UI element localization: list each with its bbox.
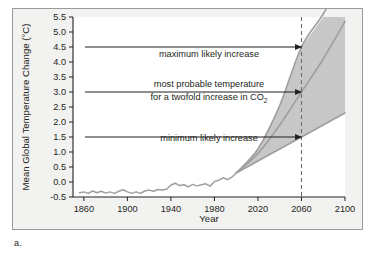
annotation-maximum-label: maximum likely increase [159, 49, 259, 59]
y-axis-title: Mean Global Temperature Change (°C) [20, 24, 31, 191]
y-tick-label: 2.5 [53, 102, 66, 112]
y-tick-label: 0.0 [53, 177, 66, 187]
annotation-minimum-label: minimum likely increase [160, 133, 258, 143]
annotation-co2-subscript: 2 [264, 97, 268, 104]
y-tick-label: 1.0 [53, 147, 66, 157]
x-tick-label: 2020 [248, 204, 268, 214]
y-tick-label: 5.5 [53, 12, 66, 22]
x-tick-label: 1900 [117, 204, 137, 214]
x-tick-label: 1860 [74, 204, 94, 214]
temperature-projection-chart: -0.50.00.51.01.52.02.53.03.54.04.55.05.5… [13, 9, 362, 229]
x-tick-label: 2100 [335, 204, 355, 214]
figure-panel: -0.50.00.51.01.52.02.53.03.54.04.55.05.5… [0, 0, 375, 264]
y-axis-ticks: -0.50.00.51.01.52.02.53.03.54.04.55.05.5 [50, 12, 73, 202]
x-axis-ticks: 1860190019401980202020602100 [74, 197, 356, 214]
chart-frame: -0.50.00.51.01.52.02.53.03.54.04.55.05.5… [12, 8, 363, 230]
y-tick-label: 4.5 [53, 42, 66, 52]
x-axis-title: Year [199, 213, 219, 224]
annotation-probable-label-line2: for a twofold increase in CO2 [150, 92, 267, 104]
annotation-probable-label-line1: most probable temperature [154, 79, 264, 89]
y-tick-label: 3.5 [53, 72, 66, 82]
x-tick-label: 2060 [291, 204, 311, 214]
y-tick-label: -0.5 [50, 192, 66, 202]
figure-caption: a. [14, 238, 22, 248]
y-tick-label: 3.0 [53, 87, 66, 97]
annotation-probable-text: for a twofold increase in CO [150, 92, 263, 102]
x-tick-label: 1940 [161, 204, 181, 214]
y-tick-label: 2.0 [53, 117, 66, 127]
y-tick-label: 5.0 [53, 27, 66, 37]
y-tick-label: 0.5 [53, 162, 66, 172]
y-tick-label: 1.5 [53, 132, 66, 142]
y-tick-label: 4.0 [53, 57, 66, 67]
